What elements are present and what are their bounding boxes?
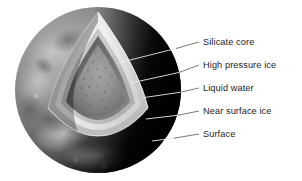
leader-line-liquid-water-outer bbox=[180, 88, 199, 92]
label-liquid-water: Liquid water bbox=[203, 83, 254, 93]
label-high-pressure-ice: High pressure ice bbox=[203, 60, 276, 70]
leader-line-surface-outer bbox=[174, 134, 199, 138]
callout-labels: Silicate core High pressure ice Liquid w… bbox=[203, 37, 276, 139]
label-near-surface-ice: Near surface ice bbox=[203, 106, 272, 116]
leader-line-high-pressure-ice-outer bbox=[179, 65, 199, 73]
diagram-page: Silicate core High pressure ice Liquid w… bbox=[0, 0, 302, 181]
leader-line-near-surface-ice-outer bbox=[178, 111, 199, 115]
label-surface: Surface bbox=[203, 129, 235, 139]
planetary-interior-diagram: Silicate core High pressure ice Liquid w… bbox=[0, 0, 302, 181]
leader-line-silicate-core-outer bbox=[176, 42, 199, 49]
label-silicate-core: Silicate core bbox=[203, 37, 254, 47]
